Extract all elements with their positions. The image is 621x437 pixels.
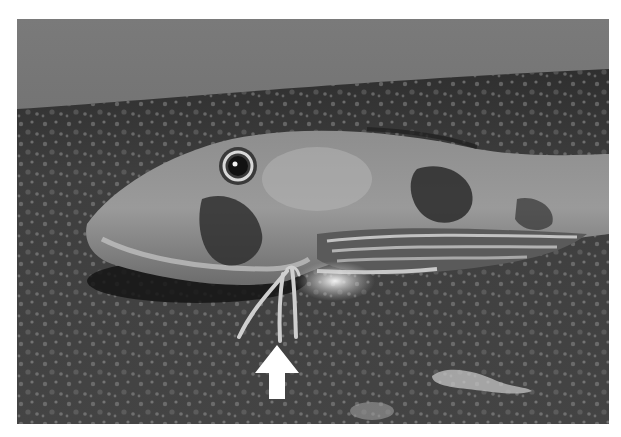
fish-eye-glint — [233, 162, 238, 167]
fish-belly — [295, 261, 375, 301]
fish-photo — [17, 19, 609, 424]
seabed-pebble — [350, 402, 394, 420]
fish-eye-pupil — [228, 156, 248, 176]
body-light-region — [262, 147, 372, 211]
photo-frame — [17, 19, 609, 424]
